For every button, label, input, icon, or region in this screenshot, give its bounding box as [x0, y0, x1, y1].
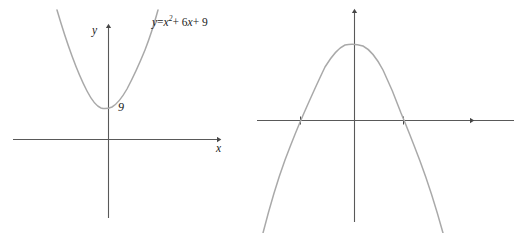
left-chart-svg	[0, 0, 257, 233]
right-parabola-curve	[263, 44, 443, 233]
figure-container: y=x2+ 6x+ 9 y x 9 y=–x2+ 9 y x 9	[0, 0, 514, 233]
left-parabola-curve	[57, 10, 158, 109]
left-eq-rest2: + 9	[193, 16, 208, 28]
chart-panel-left: y=x2+ 6x+ 9 y x 9	[0, 0, 257, 233]
left-equation-label: y=x2+ 6x+ 9	[152, 17, 208, 29]
left-vertex-value-label: 9	[118, 101, 124, 113]
left-eq-rest1: + 6	[172, 16, 187, 28]
chart-panel-right: y=–x2+ 9 y x 9 –3 +3	[257, 0, 514, 233]
left-x-axis-label: x	[216, 143, 221, 155]
left-y-axis-label: y	[92, 25, 97, 37]
right-chart-svg	[257, 0, 514, 233]
